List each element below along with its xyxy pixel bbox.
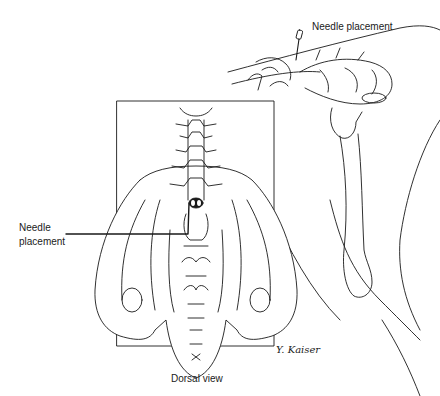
caption-dorsal-view: Dorsal view [171,373,223,385]
lateral-femur [330,108,372,297]
dorsal-needle-marker [189,198,203,208]
left-needle-label-line2: placement [19,236,65,248]
lateral-pelvis [248,48,392,104]
top-needle-label: Needle placement [312,21,393,33]
top-needle [296,30,303,60]
anatomy-drawing [0,0,440,396]
illustration: Needle placement Needle placement Dorsal… [0,0,440,396]
artist-signature: Y. Kaiser [276,344,320,355]
left-needle-label-line1: Needle [19,222,51,234]
